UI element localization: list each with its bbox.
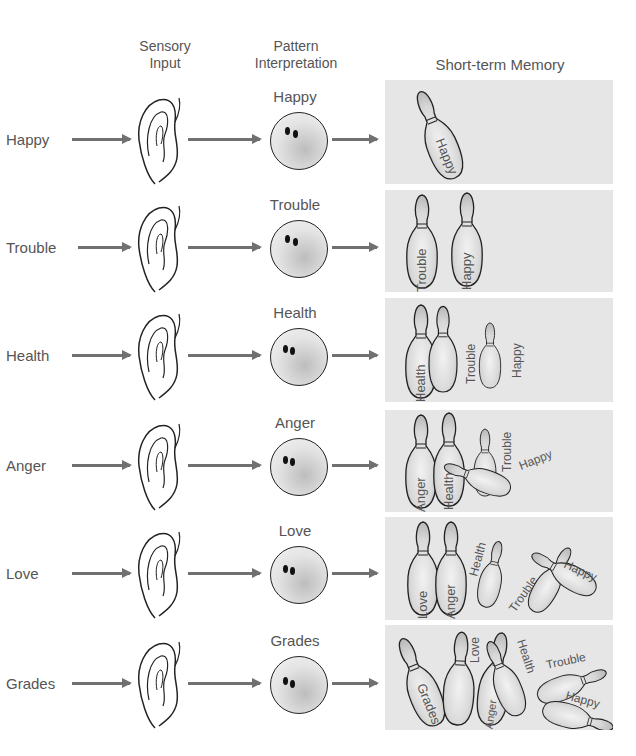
memory-panel-love: Love Anger Health Trouble Happy bbox=[385, 517, 613, 620]
memory-label: Happy bbox=[517, 447, 554, 473]
input-label: Health bbox=[6, 347, 49, 364]
svg-text:Anger: Anger bbox=[443, 584, 458, 619]
header-pattern-line2: Interpretation bbox=[236, 55, 356, 72]
input-arrow bbox=[72, 682, 130, 685]
input-arrow bbox=[72, 572, 130, 575]
ear-to-ball-arrow bbox=[188, 682, 260, 685]
bowling-pin-icon: Anger bbox=[406, 415, 436, 512]
ear-icon bbox=[135, 204, 185, 294]
ear-icon bbox=[135, 530, 185, 620]
header-sensory-line1: Sensory bbox=[125, 38, 205, 55]
input-label: Love bbox=[6, 565, 39, 582]
bowling-ball-icon bbox=[270, 546, 328, 604]
memory-pins: Grades Love Anger Health Trouble Happy bbox=[385, 625, 613, 730]
ear-to-ball-arrow bbox=[188, 138, 260, 141]
memory-pins: Health Trouble Happy bbox=[385, 298, 613, 402]
bowling-ball-icon bbox=[270, 220, 328, 278]
interpretation-label: Health bbox=[255, 304, 335, 321]
memory-label: Trouble bbox=[464, 343, 478, 384]
bowling-ball-icon bbox=[270, 112, 328, 170]
svg-text:Health: Health bbox=[441, 472, 456, 510]
memory-label: Trouble bbox=[545, 650, 588, 672]
input-label: Happy bbox=[6, 131, 49, 148]
bowling-ball-icon bbox=[270, 328, 328, 386]
interpretation-label: Anger bbox=[255, 414, 335, 431]
memory-panel-grades: Grades Love Anger Health Trouble Happy bbox=[385, 625, 613, 730]
input-label: Trouble bbox=[6, 239, 56, 256]
memory-label: Health bbox=[514, 638, 538, 675]
ball-to-memory-arrow bbox=[332, 682, 377, 685]
ear-icon bbox=[135, 312, 185, 402]
input-label: Anger bbox=[6, 457, 46, 474]
bowling-pin-icon: Happy bbox=[406, 86, 469, 184]
svg-text:Love: Love bbox=[415, 591, 430, 619]
header-sensory-line2: Input bbox=[125, 55, 205, 72]
bowling-pin-icon: Trouble bbox=[407, 195, 437, 292]
ear-icon bbox=[135, 422, 185, 512]
interpretation-label: Happy bbox=[255, 88, 335, 105]
memory-panel-health: Health Trouble Happy bbox=[385, 298, 613, 402]
header-pattern-line1: Pattern bbox=[236, 38, 356, 55]
input-arrow bbox=[72, 354, 130, 357]
input-label: Grades bbox=[6, 675, 55, 692]
ball-to-memory-arrow bbox=[332, 138, 377, 141]
ball-to-memory-arrow bbox=[332, 354, 377, 357]
memory-pins: Love Anger Health Trouble Happy bbox=[385, 517, 613, 620]
bowling-pin-icon: Health bbox=[434, 413, 464, 510]
bowling-pin-icon: Happy bbox=[452, 193, 482, 290]
header-pattern-interpretation: Pattern Interpretation bbox=[236, 38, 356, 72]
bowling-pin-icon: Grades bbox=[388, 633, 451, 730]
interpretation-label: Grades bbox=[255, 632, 335, 649]
ear-to-ball-arrow bbox=[188, 354, 260, 357]
input-arrow bbox=[72, 464, 130, 467]
memory-label: Happy bbox=[510, 343, 524, 378]
ear-to-ball-arrow bbox=[188, 464, 260, 467]
header-sensory-input: Sensory Input bbox=[125, 38, 205, 72]
ear-to-ball-arrow bbox=[188, 572, 260, 575]
svg-text:Anger: Anger bbox=[413, 477, 428, 512]
memory-panel-happy: Happy bbox=[385, 80, 613, 184]
ear-icon bbox=[135, 640, 185, 730]
memory-pins: Happy bbox=[385, 80, 613, 184]
memory-label: Trouble bbox=[500, 431, 514, 472]
bowling-pin-icon bbox=[429, 306, 457, 392]
input-arrow bbox=[72, 138, 130, 141]
ball-to-memory-arrow bbox=[332, 464, 377, 467]
memory-pins: Anger Health Trouble Happy bbox=[385, 410, 613, 512]
memory-label: Love bbox=[468, 637, 482, 663]
bowling-ball-icon bbox=[270, 656, 328, 714]
ear-to-ball-arrow bbox=[188, 246, 260, 249]
input-arrow bbox=[78, 246, 130, 249]
bowling-pin-icon: Anger bbox=[436, 522, 466, 619]
header-short-term-memory: Short-term Memory bbox=[410, 56, 590, 73]
ball-to-memory-arrow bbox=[332, 572, 377, 575]
interpretation-label: Love bbox=[255, 522, 335, 539]
bowling-pin-icon: Love bbox=[408, 522, 438, 619]
memory-pins: Trouble Happy bbox=[385, 190, 613, 292]
memory-panel-anger: Anger Health Trouble Happy bbox=[385, 410, 613, 512]
ear-icon bbox=[135, 96, 185, 186]
svg-text:Trouble: Trouble bbox=[414, 248, 429, 292]
memory-panel-trouble: Trouble Happy bbox=[385, 190, 613, 292]
ball-to-memory-arrow bbox=[332, 246, 377, 249]
bowling-ball-icon bbox=[270, 438, 328, 496]
interpretation-label: Trouble bbox=[255, 196, 335, 213]
svg-text:Health: Health bbox=[413, 364, 428, 402]
bowling-pin-icon bbox=[479, 323, 500, 388]
svg-text:Happy: Happy bbox=[459, 252, 474, 290]
